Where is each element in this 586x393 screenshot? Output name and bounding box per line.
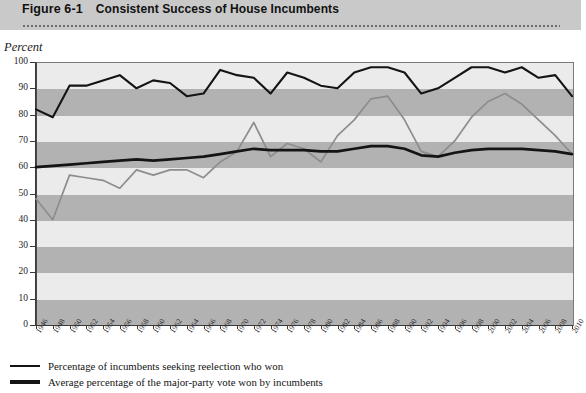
figure-header: Figure 6-1 Consistent Success of House I… [22, 2, 339, 16]
legend-label: Percentage of incumbents seeking reelect… [48, 360, 283, 372]
y-tick-label: 80 [2, 109, 28, 119]
legend-label: Average percentage of the major-party vo… [48, 376, 323, 388]
y-tick-label: 90 [2, 82, 28, 92]
y-tick-label: 40 [2, 214, 28, 224]
series-line [36, 67, 572, 117]
y-axis-label: Percent [4, 40, 42, 55]
y-tick-label: 100 [2, 56, 28, 66]
y-tick-label: 50 [2, 188, 28, 198]
y-tick-label: 30 [2, 240, 28, 250]
legend-item: Percentage of incumbents seeking reelect… [10, 358, 570, 374]
dotted-divider [22, 23, 560, 27]
y-tick-label: 60 [2, 161, 28, 171]
legend-line-swatch-thick [10, 380, 40, 384]
legend-item: Average percentage of the major-party vo… [10, 374, 570, 390]
y-tick-label: 20 [2, 266, 28, 276]
legend-line-swatch-thin [10, 365, 40, 367]
series-line [36, 94, 572, 220]
series-line [36, 146, 572, 167]
chart-lines [36, 62, 572, 325]
y-tick-label: 0 [2, 319, 28, 329]
chart-legend: Percentage of incumbents seeking reelect… [10, 358, 570, 390]
page-title: Consistent Success of House Incumbents [96, 2, 339, 16]
y-tick-label: 10 [2, 293, 28, 303]
figure-number: Figure 6-1 [22, 2, 83, 16]
y-tick-label: 70 [2, 135, 28, 145]
